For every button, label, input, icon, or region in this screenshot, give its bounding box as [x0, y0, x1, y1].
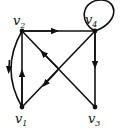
node-v4	[93, 29, 98, 34]
graph-diagram: v2 v4 v1 v3	[0, 0, 121, 130]
node-v3	[93, 105, 98, 110]
arrow-v3-v2	[43, 53, 58, 68]
arrow-v2-v1	[9, 60, 10, 70]
label-v4: v4	[85, 12, 97, 29]
label-v2: v2	[13, 13, 25, 30]
edge-v2-v1	[11, 31, 22, 107]
arrow-v4-v1	[45, 70, 58, 84]
label-v1: v1	[15, 111, 27, 128]
label-v3: v3	[88, 111, 100, 128]
node-v1	[20, 105, 25, 110]
